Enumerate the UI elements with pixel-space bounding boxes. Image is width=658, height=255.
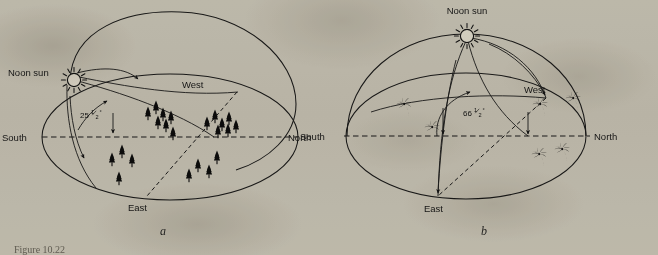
panel-a: Noon sun South North West East 25 1 2 ° … bbox=[2, 12, 311, 238]
svg-text:1: 1 bbox=[91, 109, 94, 115]
panel-label-b: b bbox=[481, 224, 487, 238]
panel-label-a: a bbox=[160, 224, 166, 238]
compass-east-b: East bbox=[424, 203, 443, 214]
svg-text:°: ° bbox=[483, 107, 485, 113]
sun-meridian-b bbox=[468, 41, 528, 136]
palm-trees-b bbox=[396, 91, 581, 167]
sun-daily-path-a bbox=[79, 77, 238, 93]
sun-descend-arrow-a bbox=[70, 96, 84, 158]
svg-text:66: 66 bbox=[463, 109, 472, 118]
sun-label-a: Noon sun bbox=[8, 67, 49, 78]
sun-label-b: Noon sun bbox=[447, 5, 488, 16]
compass-south-a: South bbox=[2, 132, 27, 143]
angle-label-b: 66 1 2 ° bbox=[463, 107, 485, 118]
angle-label-a: 25 1 2 ° bbox=[80, 109, 102, 120]
svg-text:2: 2 bbox=[95, 114, 98, 120]
sun-icon bbox=[454, 23, 479, 48]
compass-west-b: West bbox=[524, 84, 546, 95]
sun-meridian-front-b bbox=[438, 41, 466, 196]
panel-b: Noon sun South North West East 66 1 2 ° … bbox=[300, 5, 617, 238]
west-east-meridian-b bbox=[438, 98, 546, 196]
svg-text:2: 2 bbox=[478, 112, 481, 118]
svg-text:1: 1 bbox=[474, 107, 477, 113]
celestial-sphere-outline-a bbox=[42, 12, 298, 200]
figure-svg: Noon sun South North West East 25 1 2 ° … bbox=[0, 0, 658, 255]
compass-east-a: East bbox=[128, 202, 147, 213]
west-east-meridian-a bbox=[147, 92, 237, 196]
compass-north-b: North bbox=[594, 131, 617, 142]
figure-caption: Figure 10.22 bbox=[14, 244, 65, 255]
compass-south-b: South bbox=[300, 131, 325, 142]
conifer-trees-a bbox=[109, 100, 239, 185]
svg-text:°: ° bbox=[100, 109, 102, 115]
tropic-arc-b bbox=[371, 96, 546, 112]
compass-west-a: West bbox=[182, 79, 204, 90]
figure-container: Noon sun South North West East 25 1 2 ° … bbox=[0, 0, 658, 255]
svg-text:25: 25 bbox=[80, 111, 89, 120]
sun-descend-arrow-b bbox=[438, 60, 456, 193]
